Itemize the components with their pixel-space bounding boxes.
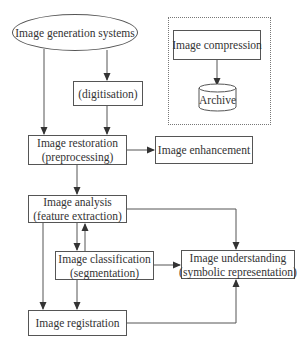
- node-image-generation-systems: Image generation systems: [12, 14, 138, 51]
- node-label: Image compression: [172, 38, 262, 52]
- node-image-understanding: Image understanding (symbolic representa…: [181, 250, 295, 279]
- node-label: Image understanding: [190, 251, 287, 265]
- edge-analysis-understanding: [127, 209, 236, 249]
- node-label: (digitisation): [78, 87, 137, 101]
- node-sublabel: (preprocessing): [42, 150, 114, 164]
- node-digitisation: (digitisation): [73, 81, 143, 106]
- node-sublabel: (symbolic representation): [179, 265, 297, 279]
- node-sublabel: (segmentation): [70, 266, 139, 280]
- node-label: Image enhancement: [158, 143, 250, 157]
- edge-registration-understanding: [127, 280, 236, 323]
- node-label: Image generation systems: [15, 26, 134, 40]
- node-image-enhancement: Image enhancement: [155, 136, 253, 164]
- node-image-classification: Image classification (segmentation): [55, 251, 154, 280]
- node-image-restoration: Image restoration (preprocessing): [28, 135, 127, 165]
- node-archive: Archive: [199, 94, 236, 106]
- node-label: Archive: [199, 94, 236, 106]
- node-image-registration: Image registration: [28, 310, 127, 336]
- node-label: Image analysis: [43, 195, 112, 209]
- node-sublabel: (feature extraction): [33, 209, 121, 223]
- node-image-analysis: Image analysis (feature extraction): [28, 195, 127, 223]
- node-label: Image classification: [58, 252, 150, 266]
- node-label: Image restoration: [37, 136, 118, 150]
- node-label: Image registration: [36, 316, 120, 330]
- node-image-compression: Image compression: [173, 30, 261, 60]
